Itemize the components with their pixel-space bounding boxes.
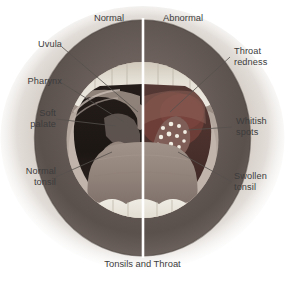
label-throat-redness: Throat redness bbox=[234, 46, 284, 68]
label-normal-tonsil: Normal tonsil bbox=[2, 166, 56, 188]
figure-caption: Tonsils and Throat bbox=[0, 258, 285, 269]
tonsils-and-throat-figure: Normal Abnormal Uvula Pharynx Soft palat… bbox=[0, 0, 285, 283]
panel-header-abnormal: Abnormal bbox=[148, 12, 218, 23]
label-swollen-tonsil: Swollen tonsil bbox=[234, 171, 285, 193]
label-whitish-spots: Whitish spots bbox=[236, 116, 285, 138]
panel-header-normal: Normal bbox=[78, 12, 140, 23]
label-uvula: Uvula bbox=[10, 39, 62, 50]
label-pharynx: Pharynx bbox=[4, 76, 62, 87]
label-soft-palate: Soft palate bbox=[6, 108, 56, 130]
